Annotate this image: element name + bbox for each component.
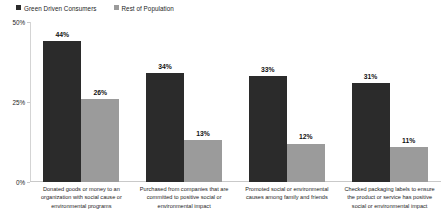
- bar-value-label: 11%: [390, 138, 428, 147]
- y-axis-tick-label: 0%: [16, 179, 25, 186]
- category-label: Promoted social or environmental causes …: [236, 185, 339, 210]
- y-axis-tick-label: 50%: [12, 19, 25, 26]
- bar[interactable]: [287, 144, 325, 182]
- bar-column: 34%: [146, 22, 184, 182]
- bar-value-label: 12%: [287, 134, 325, 143]
- bar[interactable]: [146, 73, 184, 182]
- plot-area: 0%25%50% 44%26%34%13%33%12%31%11%: [30, 22, 441, 182]
- bar-group: 34%13%: [133, 22, 236, 182]
- bar-column: 12%: [287, 22, 325, 182]
- y-axis-tick-label: 25%: [12, 99, 25, 106]
- bar-group: 33%12%: [236, 22, 339, 182]
- legend-swatch-icon: [114, 5, 119, 10]
- bar[interactable]: [390, 147, 428, 182]
- bar-column: 33%: [249, 22, 287, 182]
- bar-column: 26%: [81, 22, 119, 182]
- bar-group: 31%11%: [338, 22, 441, 182]
- bar-value-label: 31%: [352, 74, 390, 83]
- bar-pair: 33%12%: [236, 22, 339, 182]
- bar[interactable]: [352, 83, 390, 182]
- bar-column: 13%: [184, 22, 222, 182]
- bar-value-label: 34%: [146, 64, 184, 73]
- category-label: Checked packaging labels to ensure the p…: [338, 185, 441, 210]
- bar-group: 44%26%: [30, 22, 133, 182]
- category-label: Donated goods or money to an organizatio…: [30, 185, 133, 210]
- legend-label: Rest of Population: [122, 5, 174, 12]
- bar-column: 31%: [352, 22, 390, 182]
- bar-pair: 44%26%: [30, 22, 133, 182]
- bar-column: 44%: [43, 22, 81, 182]
- bar-value-label: 33%: [249, 67, 287, 76]
- category-labels: Donated goods or money to an organizatio…: [30, 185, 441, 210]
- bar-pair: 31%11%: [338, 22, 441, 182]
- legend-item-0[interactable]: Green Driven Consumers: [16, 5, 97, 12]
- bar[interactable]: [43, 41, 81, 182]
- bar-column: 11%: [390, 22, 428, 182]
- bar-value-label: 13%: [184, 131, 222, 140]
- bar-value-label: 26%: [81, 90, 119, 99]
- legend-swatch-icon: [16, 5, 21, 10]
- y-axis-tick: [27, 182, 30, 183]
- bar-value-label: 44%: [43, 32, 81, 41]
- bar[interactable]: [184, 140, 222, 182]
- bar[interactable]: [81, 99, 119, 182]
- chart-legend: Green Driven ConsumersRest of Population: [16, 2, 174, 14]
- legend-item-1[interactable]: Rest of Population: [114, 5, 174, 12]
- bar-pair: 34%13%: [133, 22, 236, 182]
- bar-chart: Green Driven ConsumersRest of Population…: [0, 0, 445, 221]
- legend-label: Green Driven Consumers: [24, 5, 97, 12]
- bar[interactable]: [249, 76, 287, 182]
- category-label: Purchased from companies that are commit…: [133, 185, 236, 210]
- bar-groups: 44%26%34%13%33%12%31%11%: [30, 22, 441, 182]
